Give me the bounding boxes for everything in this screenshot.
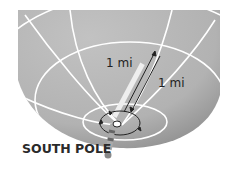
- south-pole-label: SOUTH POLE: [22, 141, 111, 156]
- distance-label-2: 1 mi: [158, 76, 184, 90]
- distance-label-1: 1 mi: [106, 56, 132, 70]
- globe-shape: [18, 10, 220, 148]
- south-pole-diagram: 1 mi 1 mi SOUTH POLE: [0, 0, 229, 173]
